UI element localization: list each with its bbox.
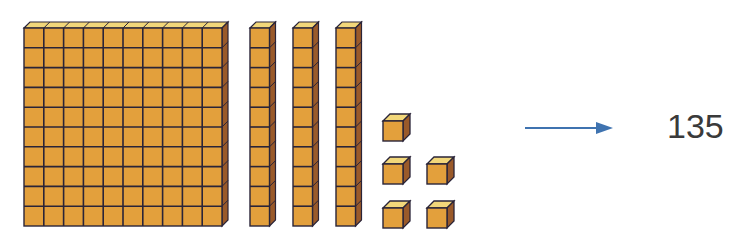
unit-cube <box>427 201 454 228</box>
unit-cube <box>383 114 410 141</box>
unit-cube <box>383 157 410 184</box>
unit-cube <box>383 201 410 228</box>
unit-cube <box>427 157 454 184</box>
ten-rod <box>336 22 362 226</box>
ten-rod <box>293 22 319 226</box>
arrow-right-icon <box>525 122 613 134</box>
result-number: 135 <box>667 107 724 146</box>
ten-rod <box>250 22 276 226</box>
hundred-flat <box>24 22 228 226</box>
base-ten-diagram <box>0 0 750 243</box>
